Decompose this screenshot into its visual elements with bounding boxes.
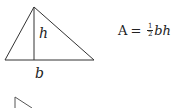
base-label: b: [35, 65, 44, 81]
area-formula: A = 1 2 bh: [118, 23, 171, 38]
fraction-numerator: 1: [148, 23, 152, 30]
diagram-canvas: [0, 0, 182, 108]
formula-lhs: A: [118, 23, 127, 38]
formula-rhs-vars: bh: [154, 23, 171, 38]
fraction-denominator: 2: [148, 31, 152, 38]
triangle: [5, 7, 94, 60]
formula-equals: =: [130, 23, 141, 38]
formula-fraction: 1 2: [147, 23, 153, 38]
height-label: h: [39, 25, 48, 41]
partial-figure-diagonal-line: [15, 97, 32, 108]
